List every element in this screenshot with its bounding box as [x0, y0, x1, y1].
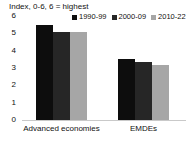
bar-emdes-1990-99: [118, 59, 135, 120]
y-tick-6: 6: [0, 12, 16, 20]
y-tick-4: 4: [0, 47, 16, 55]
bar-chart: Index, 0-6, 6 = highest 1990-99 2000-09 …: [0, 0, 189, 144]
bar-advanced-economies-2000-09: [53, 32, 70, 120]
bar-emdes-2010-22: [152, 65, 169, 120]
y-tick-3: 3: [0, 64, 16, 72]
bar-advanced-economies-1990-99: [36, 25, 53, 120]
y-tick-0: 0: [0, 116, 16, 124]
bar-group-emdes: [118, 16, 169, 120]
bar-emdes-2000-09: [135, 62, 152, 120]
chart-axis-title: Index, 0-6, 6 = highest: [9, 2, 88, 12]
plot-area: [22, 16, 186, 120]
bar-advanced-economies-2010-22: [70, 32, 87, 120]
y-tick-2: 2: [0, 81, 16, 89]
category-label-emdes: EMDEs: [94, 124, 190, 134]
y-tick-5: 5: [0, 29, 16, 37]
bar-group-advanced-economies: [36, 16, 87, 120]
y-tick-1: 1: [0, 99, 16, 107]
x-axis-baseline: [22, 120, 186, 121]
